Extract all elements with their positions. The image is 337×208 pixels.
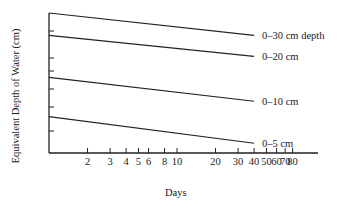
y-axis-label: Equivalent Depth of Water (cm) — [10, 29, 21, 164]
series-line — [49, 117, 254, 144]
x-tick-label: 8 — [162, 156, 167, 167]
series-line — [49, 35, 254, 56]
series-label: 0–30 cm depth — [262, 30, 325, 41]
series-lines — [49, 13, 254, 143]
x-tick-label: 10 — [172, 156, 183, 167]
series-label: 0–5 cm — [262, 138, 293, 149]
series-label: 0–10 cm — [262, 96, 298, 107]
x-tick-label: 6 — [146, 156, 151, 167]
x-tick-label: 40 — [249, 156, 260, 167]
x-tick-label: 5 — [136, 156, 141, 167]
x-tick-label: 20 — [210, 156, 221, 167]
series-line — [49, 13, 254, 35]
x-tick-label: 3 — [107, 156, 112, 167]
chart-plot-area: 2345681020304050607080 0–30 cm depth0–20… — [0, 0, 337, 208]
x-axis-label: Days — [165, 187, 187, 198]
x-axis-ticks: 2345681020304050607080 — [85, 148, 298, 167]
series-label: 0–20 cm — [262, 51, 298, 62]
x-tick-label: 50 — [261, 156, 272, 167]
y-axis-ticks — [49, 31, 54, 131]
series-line — [49, 77, 254, 101]
x-tick-label: 4 — [123, 156, 129, 167]
x-tick-label: 30 — [233, 156, 244, 167]
x-tick-label: 80 — [287, 156, 298, 167]
series-labels: 0–30 cm depth0–20 cm0–10 cm0–5 cm — [262, 30, 325, 149]
x-tick-label: 2 — [85, 156, 90, 167]
